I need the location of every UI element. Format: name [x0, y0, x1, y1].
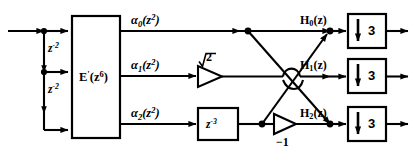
junction-dot-tap1 — [41, 69, 47, 75]
negative-one-gain-triangle — [274, 114, 296, 134]
h2-label: H2(z) — [300, 107, 327, 122]
h0-label: H0(z) — [300, 14, 327, 29]
decimator-box-1 — [348, 59, 386, 93]
polyphase-block-label: E'(z6) — [79, 70, 108, 84]
signal-wires — [8, 31, 68, 130]
decimation-factor-2: 3 — [368, 117, 375, 130]
decimation-factor-0: 3 — [368, 24, 375, 37]
delay-z3-block — [198, 108, 238, 140]
decimator-box-0 — [348, 14, 386, 48]
sqrt2-gain-triangle — [198, 66, 222, 87]
alpha2-label: α2(z2) — [131, 106, 160, 121]
negative-one-gain-label: −1 — [276, 136, 289, 148]
sqrt2-gain-label: 2 — [206, 51, 212, 63]
junction-dot-tap0 — [41, 28, 47, 34]
h1-label: H1(z) — [300, 59, 327, 74]
polyphase-filter-bank-diagram: z-2 z-2 E'(z6) α0(z2) α1(z2) α2(z2) 2 z-… — [0, 0, 413, 153]
junction-dot-top-branch — [245, 28, 252, 35]
delay-z3-label: z-3 — [206, 118, 217, 131]
decimator-box-2 — [348, 107, 386, 141]
delay-label-1: z-2 — [48, 42, 59, 55]
delay-label-2: z-2 — [48, 83, 59, 96]
alpha1-label: α1(z2) — [131, 58, 160, 73]
alpha0-label: α0(z2) — [131, 13, 160, 28]
junction-dot-bottom-branch — [259, 121, 266, 128]
decimation-factor-1: 3 — [368, 69, 375, 82]
